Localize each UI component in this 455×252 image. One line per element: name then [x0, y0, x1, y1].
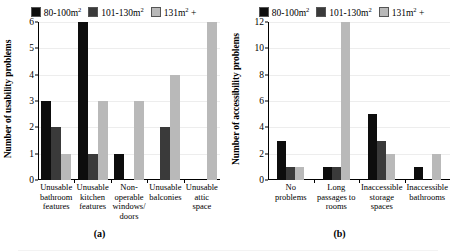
legend-swatch-icon-series-80-100-b — [259, 7, 269, 17]
y-axis-title-b-label: Number of accessibility problems — [231, 33, 241, 165]
y-tick-mark-a — [35, 48, 38, 49]
y-tick-mark-b — [265, 74, 268, 75]
bar-80-100m2-b[interactable] — [368, 114, 377, 180]
bar-group-a — [74, 22, 110, 180]
bar-group-a — [184, 22, 220, 180]
legend-label-series-80-100-b: 80-100m2 — [272, 5, 310, 19]
bottom-rule — [18, 250, 438, 251]
x-axis-labels-b: No problemsLong passages to roomsInacces… — [268, 183, 450, 212]
bar-101-130m2-a[interactable] — [51, 127, 61, 180]
bar-131m2--b[interactable] — [386, 154, 395, 180]
panel-a: 80-100m2101-130m2131m2 + Number of usabi… — [0, 0, 227, 252]
y-tick-mark-a — [35, 127, 38, 128]
y-tick-mark-b — [265, 153, 268, 154]
legend-swatch-icon-series-101-130-b — [316, 7, 326, 17]
y-tick-mark-b — [265, 127, 268, 128]
legend-item-series-131-plus-b[interactable]: 131m2 + — [379, 5, 425, 19]
bar-101-130m2-a[interactable] — [88, 154, 98, 180]
x-axis-labels-a: Unusable bathroom featuresUnusable kitch… — [38, 183, 220, 221]
x-axis-label-a: Non-operable windows/ doors — [111, 183, 147, 221]
plot-area-b: 024681012 — [268, 22, 450, 180]
y-axis-title-a-label: Number of usability problems — [3, 40, 13, 159]
y-tick-mark-a — [35, 101, 38, 102]
caption-a: (a) — [0, 228, 213, 239]
x-axis-label-b: No problems — [268, 183, 314, 212]
legend-label-series-101-130-b: 101-130m2 — [329, 5, 371, 19]
bar-131m2--a[interactable] — [134, 101, 144, 180]
bar-groups-a — [38, 22, 220, 180]
bar-group-b — [359, 22, 405, 180]
legend-swatch-icon-series-131-plus-a — [151, 7, 161, 17]
x-axis-label-b: Inaccessible bathrooms — [405, 183, 451, 212]
bar-131m2--a[interactable] — [207, 22, 217, 180]
bar-80-100m2-a[interactable] — [78, 22, 88, 180]
y-tick-mark-a — [35, 22, 38, 23]
legend-item-series-101-130-b[interactable]: 101-130m2 — [316, 5, 371, 19]
bar-80-100m2-b[interactable] — [414, 167, 423, 180]
bar-group-b — [268, 22, 314, 180]
bar-80-100m2-a[interactable] — [114, 154, 124, 180]
bar-group-a — [111, 22, 147, 180]
legend-label-series-131-plus-b: 131m2 + — [392, 5, 425, 19]
y-tick-mark-b — [265, 22, 268, 23]
legend-label-series-131-plus-a: 131m2 + — [164, 5, 197, 19]
y-tick-mark-a — [35, 153, 38, 154]
x-axis-label-b: Long passages to rooms — [314, 183, 360, 212]
x-axis-label-a: Unusable bathroom features — [38, 183, 74, 221]
bar-131m2--a[interactable] — [61, 154, 71, 180]
x-axis-label-a: Unusable kitchen features — [74, 183, 110, 221]
legend-swatch-icon-series-80-100-a — [31, 7, 41, 17]
legend-swatch-icon-series-101-130-a — [88, 7, 98, 17]
legend-item-series-131-plus-a[interactable]: 131m2 + — [151, 5, 197, 19]
y-tick-mark-b — [265, 48, 268, 49]
panel-b: 80-100m2101-130m2131m2 + Number of acces… — [228, 0, 455, 252]
legend-label-series-101-130-a: 101-130m2 — [101, 5, 143, 19]
y-tick-mark-a — [35, 180, 38, 181]
bar-80-100m2-a[interactable] — [41, 101, 51, 180]
bar-131m2--b[interactable] — [295, 167, 304, 180]
bar-groups-b — [268, 22, 450, 180]
x-axis-label-a: Unusable attic space — [184, 183, 220, 221]
bar-101-130m2-a[interactable] — [160, 127, 170, 180]
figure-two-panel-bar-charts: 80-100m2101-130m2131m2 + Number of usabi… — [0, 0, 455, 252]
legend-item-series-101-130-a[interactable]: 101-130m2 — [88, 5, 143, 19]
legend-label-series-80-100-a: 80-100m2 — [44, 5, 82, 19]
gridline-a — [38, 180, 220, 181]
bar-101-130m2-b[interactable] — [332, 167, 341, 180]
x-axis-label-a: Unusable balconies — [147, 183, 183, 221]
bar-group-b — [314, 22, 360, 180]
bar-group-b — [405, 22, 451, 180]
x-axis-label-b: Inaccessible storage spaces — [359, 183, 405, 212]
y-tick-mark-a — [35, 74, 38, 75]
bar-101-130m2-b[interactable] — [286, 167, 295, 180]
bar-131m2--a[interactable] — [98, 101, 108, 180]
bar-101-130m2-b[interactable] — [377, 141, 386, 181]
bar-group-a — [38, 22, 74, 180]
legend-item-series-80-100-a[interactable]: 80-100m2 — [31, 5, 82, 19]
bar-80-100m2-b[interactable] — [277, 141, 286, 181]
bar-group-a — [147, 22, 183, 180]
bar-131m2--b[interactable] — [432, 154, 441, 180]
bar-131m2--a[interactable] — [170, 75, 180, 180]
bar-131m2--b[interactable] — [341, 22, 350, 180]
plot-area-a: 0123456 — [38, 22, 220, 180]
bar-80-100m2-b[interactable] — [323, 167, 332, 180]
caption-b: (b) — [226, 228, 453, 239]
legend-swatch-icon-series-131-plus-b — [379, 7, 389, 17]
y-axis-title-a: Number of usability problems — [1, 18, 15, 180]
y-tick-mark-b — [265, 180, 268, 181]
y-axis-title-b: Number of accessibility problems — [229, 18, 243, 180]
y-tick-mark-b — [265, 101, 268, 102]
